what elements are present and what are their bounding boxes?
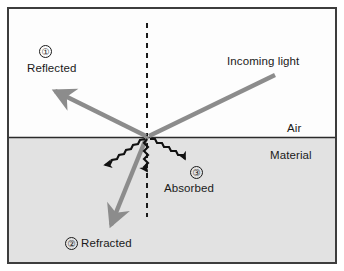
diagram-canvas: ① Reflected Incoming light Air Material … — [9, 9, 335, 262]
reflected-ray — [55, 91, 146, 136]
callout-number-refracted: ② — [65, 237, 78, 250]
callout-number-absorbed: ③ — [190, 166, 203, 179]
callout-number-reflected: ① — [39, 45, 52, 58]
label-absorbed: Absorbed — [164, 182, 214, 195]
label-refracted: Refracted — [81, 237, 132, 250]
incoming-light-arrowhead — [207, 100, 223, 108]
label-incoming-light: Incoming light — [227, 55, 299, 68]
light-interaction-diagram: ① Reflected Incoming light Air Material … — [0, 0, 344, 271]
label-material: Material — [270, 149, 312, 162]
diagram-graphics — [9, 9, 335, 262]
label-air: Air — [287, 122, 301, 135]
label-reflected: Reflected — [27, 62, 76, 75]
